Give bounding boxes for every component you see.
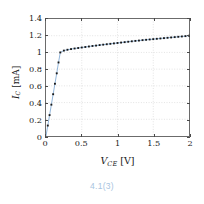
y-tick-mark (187, 35, 190, 36)
series-marker (149, 39, 151, 41)
series-marker (113, 42, 115, 44)
x-tick-label: 2 (187, 139, 192, 147)
x-axis-subscript: CE (107, 160, 117, 168)
series-marker (109, 43, 111, 45)
y-tick-label: 0.6 (29, 82, 42, 90)
data-series-ic-vs-vce (46, 19, 189, 136)
x-tick-mark (118, 134, 119, 137)
y-tick-label: 1 (37, 48, 42, 56)
series-marker (163, 37, 165, 39)
y-tick-label: 0.2 (29, 116, 42, 124)
series-marker (67, 49, 69, 51)
y-tick-label: 0 (37, 133, 42, 141)
x-tick-label: 0 (42, 139, 47, 147)
series-marker (142, 39, 144, 41)
series-line (46, 36, 189, 136)
y-tick-mark (187, 52, 190, 53)
x-tick-mark (154, 18, 155, 21)
series-marker (81, 47, 83, 49)
x-axis-unit: [V] (120, 155, 134, 166)
series-marker (54, 83, 56, 85)
series-marker (47, 125, 49, 127)
series-marker (159, 38, 161, 40)
y-tick-label: 1.2 (29, 31, 42, 39)
series-marker (95, 45, 97, 47)
y-tick-mark (45, 86, 48, 87)
figure-caption: 4.1(3) (0, 181, 204, 191)
series-marker (56, 72, 58, 74)
x-tick-mark (154, 134, 155, 137)
series-marker (49, 114, 51, 116)
plot-area (45, 18, 190, 137)
series-marker (58, 62, 60, 64)
y-tick-label: 0.8 (29, 65, 42, 73)
series-marker (174, 36, 176, 38)
series-marker (88, 46, 90, 48)
series-marker (102, 44, 104, 46)
series-marker (124, 41, 126, 43)
y-tick-mark (187, 103, 190, 104)
y-tick-mark (45, 52, 48, 53)
y-tick-mark (45, 18, 48, 19)
y-tick-mark (45, 120, 48, 121)
series-marker (131, 40, 133, 42)
series-marker (106, 43, 108, 45)
y-tick-label: 0.4 (29, 99, 42, 107)
y-tick-mark (187, 18, 190, 19)
series-marker (117, 42, 119, 44)
x-tick-mark (81, 134, 82, 137)
x-tick-label: 0.5 (75, 139, 88, 147)
series-marker (177, 36, 179, 38)
series-marker (181, 36, 183, 38)
series-marker (92, 45, 94, 47)
x-tick-mark (190, 18, 191, 21)
series-marker (120, 42, 122, 44)
y-tick-mark (187, 86, 190, 87)
y-tick-mark (45, 69, 48, 70)
series-marker (167, 37, 169, 39)
series-marker (84, 46, 86, 48)
series-marker (99, 44, 101, 46)
series-marker (134, 40, 136, 42)
y-tick-label: 1.4 (29, 14, 42, 22)
series-marker (52, 93, 54, 95)
x-tick-label: 1 (115, 139, 120, 147)
y-tick-mark (45, 103, 48, 104)
series-marker (74, 48, 76, 50)
series-marker (156, 38, 158, 40)
series-marker (59, 51, 61, 53)
series-marker (50, 104, 52, 106)
x-tick-mark (190, 134, 191, 137)
x-tick-label: 1.5 (147, 139, 160, 147)
series-marker (152, 38, 154, 40)
series-marker (77, 47, 79, 49)
series-marker (145, 39, 147, 41)
series-marker (138, 40, 140, 42)
series-marker (127, 41, 129, 43)
y-axis-tick-labels: 00.20.40.60.811.21.4 (14, 18, 42, 137)
y-tick-mark (45, 35, 48, 36)
y-tick-mark (187, 120, 190, 121)
y-tick-mark (187, 69, 190, 70)
series-marker (63, 50, 65, 52)
x-axis-title: VCE [V] (45, 155, 190, 168)
x-tick-mark (118, 18, 119, 21)
series-marker (70, 48, 72, 50)
figure-container: IC [mA] 00.20.40.60.811.21.4 00.511.52 V… (0, 0, 204, 204)
x-axis-tick-labels: 00.511.52 (45, 139, 190, 151)
series-marker (170, 37, 172, 39)
x-tick-mark (81, 18, 82, 21)
